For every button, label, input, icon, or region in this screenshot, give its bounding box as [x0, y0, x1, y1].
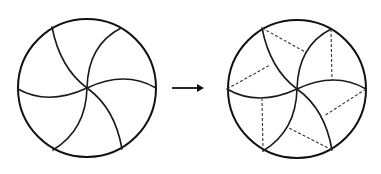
- right-dashed-line: [324, 89, 366, 116]
- right-dashed-line: [227, 65, 270, 89]
- right-dashed-line: [287, 127, 332, 150]
- diagram-canvas: Pinwheel circle divided by six curved ar…: [0, 0, 381, 174]
- right-curved-spoke: [227, 89, 297, 98]
- left-curved-spoke: [87, 88, 122, 149]
- right-curved-spoke: [262, 28, 297, 89]
- right-dashed-line: [262, 99, 263, 151]
- diagram-svg: [0, 0, 381, 174]
- right-curved-spoke: [297, 80, 366, 89]
- right-dashed-line: [331, 29, 332, 81]
- left-curved-spoke: [18, 88, 87, 97]
- arrow-head-icon: [197, 84, 204, 92]
- left-curved-spoke: [87, 79, 156, 88]
- left-figure: [18, 19, 156, 157]
- right-curved-spoke: [297, 89, 332, 150]
- right-figure: [227, 20, 366, 158]
- left-curved-spoke: [52, 27, 87, 88]
- right-arrow-icon: [172, 84, 204, 92]
